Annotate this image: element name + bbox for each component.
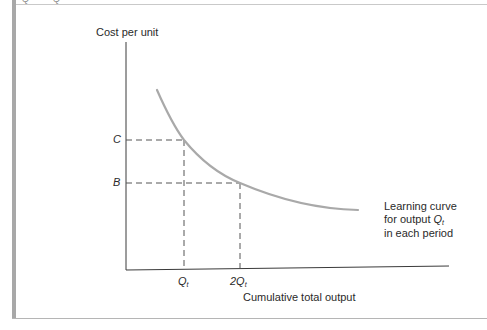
curve-annotation: Learning curve for output Qt in each per… [384, 200, 457, 239]
x-axis [126, 266, 449, 270]
y-tick-b: B [113, 176, 120, 189]
learning-curve [157, 90, 358, 210]
x-tick-qt: Qt [178, 275, 189, 289]
curve-annotation-line1: Learning curve [384, 200, 457, 213]
curve-annotation-line2: for output Qt [384, 213, 457, 227]
x-axis-label: Cumulative total output [243, 291, 356, 304]
y-axis-label: Cost per unit [96, 26, 158, 39]
x-tick-2qt: 2Qt [230, 275, 247, 289]
y-tick-c: C [113, 133, 121, 146]
curve-annotation-line3: in each period [384, 227, 457, 240]
